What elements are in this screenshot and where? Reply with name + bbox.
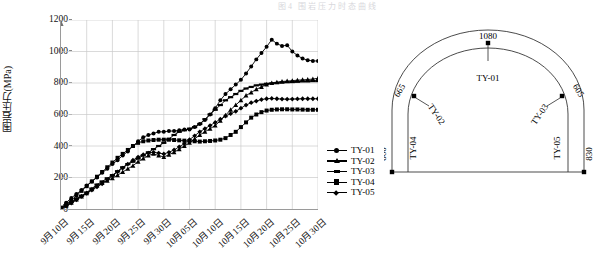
legend-item-ty-04[interactable]: TY-04 xyxy=(327,177,385,188)
legend-label: TY-02 xyxy=(347,156,374,167)
legend-label: TY-01 xyxy=(347,145,374,156)
tunnel-outline: 1080TY-01665TY-02605TY-03860TY-04830TY-0… xyxy=(384,14,615,214)
triangle-marker-icon xyxy=(327,156,347,166)
pressure-time-chart: 围岩压力(MPa) 020040060080010001200 9月10日9月1… xyxy=(0,8,390,273)
square-marker-icon xyxy=(327,177,347,187)
dash-marker-icon xyxy=(327,166,347,176)
diagram-label-ty-01: TY-01 xyxy=(477,73,500,83)
diagram-value-ty-04: 860 xyxy=(384,147,388,161)
diagram-value-ty-03: 605 xyxy=(571,82,587,99)
circle-marker-icon xyxy=(327,145,347,155)
legend-item-ty-02[interactable]: TY-02 xyxy=(327,156,385,167)
legend-item-ty-03[interactable]: TY-03 xyxy=(327,166,385,177)
series-canvas xyxy=(61,20,318,209)
diagram-value-ty-02: 665 xyxy=(392,82,408,99)
diagram-value-ty-01: 1080 xyxy=(479,31,498,41)
legend-label: TY-04 xyxy=(347,177,374,188)
diagram-label-ty-05: TY-05 xyxy=(552,136,562,159)
tunnel-section-diagram: 1080TY-01665TY-02605TY-03860TY-04830TY-0… xyxy=(384,14,615,214)
legend-item-ty-05[interactable]: TY-05 xyxy=(327,187,385,198)
chart-legend: TY-01TY-02TY-03TY-04TY-05 xyxy=(327,145,385,198)
diagram-value-ty-05: 830 xyxy=(584,147,594,161)
y-axis-label: 围岩压力(MPa) xyxy=(2,66,16,132)
diagram-label-ty-04: TY-04 xyxy=(408,136,418,159)
figure-root: 图4 围岩压力时态曲线 围岩压力(MPa) 020040060080010001… xyxy=(0,0,615,273)
diagram-label-ty-03: TY-03 xyxy=(529,102,551,127)
legend-label: TY-03 xyxy=(347,166,374,177)
diamond-marker-icon xyxy=(327,188,347,198)
diagram-label-ty-02: TY-02 xyxy=(426,102,447,127)
legend-item-ty-01[interactable]: TY-01 xyxy=(327,145,385,156)
legend-label: TY-05 xyxy=(347,187,374,198)
plot-area xyxy=(60,20,318,210)
